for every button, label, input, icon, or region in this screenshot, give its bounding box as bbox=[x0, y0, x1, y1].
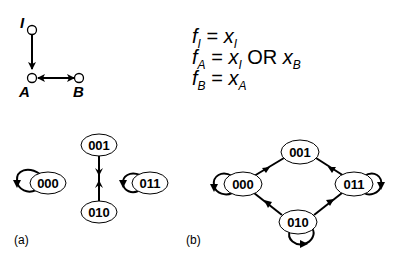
network-graph bbox=[28, 26, 84, 83]
node-a-label: A bbox=[19, 83, 30, 100]
state-010-a-label: 010 bbox=[88, 205, 110, 220]
state-011-a-label: 011 bbox=[140, 176, 161, 191]
node-a-circle bbox=[28, 74, 37, 83]
edge-010-011-b bbox=[314, 193, 342, 215]
equation-f-b: fB = xA bbox=[192, 68, 246, 96]
or-operator: OR bbox=[247, 46, 277, 68]
state-graph-b: 000 001 010 011 bbox=[210, 140, 385, 248]
state-001-a-label: 001 bbox=[88, 138, 110, 153]
panel-a-label: (a) bbox=[14, 233, 29, 247]
panel-b-label: (b) bbox=[186, 233, 201, 247]
state-graph-a: 000 001 010 011 bbox=[13, 134, 168, 223]
node-b-circle bbox=[75, 74, 84, 83]
node-b-label: B bbox=[73, 83, 84, 100]
node-i-label: I bbox=[20, 14, 24, 31]
state-010-b-label: 010 bbox=[287, 215, 309, 230]
node-i-circle bbox=[28, 26, 37, 35]
edge-001-000-b bbox=[254, 158, 284, 176]
state-000-b-label: 000 bbox=[232, 177, 254, 192]
state-000-a-label: 000 bbox=[37, 176, 59, 191]
state-001-b-label: 001 bbox=[289, 145, 311, 160]
state-011-b-label: 011 bbox=[344, 177, 365, 192]
